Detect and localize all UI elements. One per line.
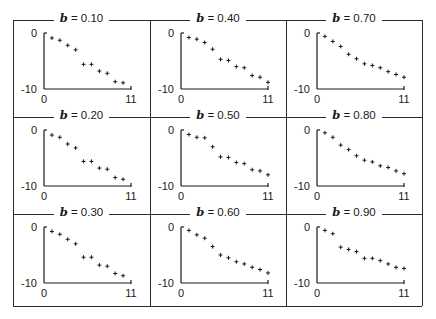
chart-panel: b = 0.200-10011 — [13, 117, 150, 214]
scatter-plot: 0-10011 — [150, 214, 286, 306]
data-point-plus-icon — [121, 274, 125, 278]
data-point-plus-icon — [258, 268, 262, 272]
data-point-plus-icon — [82, 62, 86, 66]
data-point-plus-icon — [250, 168, 254, 172]
x-tick-label-left: 0 — [314, 190, 320, 202]
y-tick-label-bottom: -10 — [158, 277, 174, 289]
data-point-plus-icon — [97, 69, 101, 73]
data-point-plus-icon — [370, 63, 374, 67]
data-point-plus-icon — [89, 255, 93, 259]
data-point-plus-icon — [187, 228, 191, 232]
data-point-plus-icon — [339, 245, 343, 249]
data-point-plus-icon — [226, 256, 230, 260]
scatter-plot: 0-10011 — [286, 117, 422, 214]
data-point-plus-icon — [82, 159, 86, 163]
data-point-plus-icon — [386, 70, 390, 74]
data-point-plus-icon — [74, 146, 78, 150]
grid-vline-3 — [422, 20, 423, 306]
x-tick-label-left: 0 — [41, 287, 47, 299]
chart-panel: b = 0.400-10011 — [150, 20, 286, 117]
data-point-plus-icon — [50, 133, 54, 137]
y-tick-label-top: 0 — [304, 27, 310, 39]
data-point-plus-icon — [219, 253, 223, 257]
data-point-plus-icon — [219, 155, 223, 159]
data-point-plus-icon — [258, 75, 262, 79]
data-point-plus-icon — [242, 66, 246, 70]
data-point-plus-icon — [402, 75, 406, 79]
data-point-plus-icon — [331, 232, 335, 236]
data-point-plus-icon — [121, 81, 125, 85]
x-tick-label-right: 11 — [262, 287, 273, 299]
scatter-plot: 0-10011 — [286, 20, 422, 117]
data-point-plus-icon — [89, 62, 93, 66]
data-point-plus-icon — [362, 158, 366, 162]
chart-panel: b = 0.900-10011 — [286, 214, 422, 306]
x-tick-label-left: 0 — [178, 93, 184, 105]
data-point-plus-icon — [58, 135, 62, 139]
x-tick-label-left: 0 — [314, 93, 320, 105]
data-point-plus-icon — [331, 39, 335, 43]
data-point-plus-icon — [347, 148, 351, 152]
x-tick-label-right: 11 — [398, 190, 409, 202]
data-point-plus-icon — [250, 265, 254, 269]
data-point-plus-icon — [66, 142, 70, 146]
data-point-plus-icon — [242, 162, 246, 166]
y-tick-label-bottom: -10 — [294, 83, 310, 95]
data-point-plus-icon — [187, 35, 191, 39]
scatter-plot: 0-10011 — [150, 20, 286, 117]
data-point-plus-icon — [97, 166, 101, 170]
data-point-plus-icon — [242, 262, 246, 266]
data-point-plus-icon — [58, 38, 62, 42]
panel-grid: b = 0.100-10011b = 0.400-10011b = 0.700-… — [13, 20, 422, 306]
data-point-plus-icon — [378, 259, 382, 263]
data-point-plus-icon — [347, 52, 351, 56]
x-tick-label-left: 0 — [41, 93, 47, 105]
data-point-plus-icon — [386, 166, 390, 170]
data-point-plus-icon — [331, 135, 335, 139]
data-point-plus-icon — [234, 260, 238, 264]
data-point-plus-icon — [105, 71, 109, 75]
data-point-plus-icon — [355, 57, 359, 61]
data-point-plus-icon — [394, 265, 398, 269]
scatter-plot: 0-10011 — [13, 20, 150, 117]
x-tick-label-right: 11 — [398, 287, 409, 299]
y-tick-label-top: 0 — [168, 124, 174, 136]
data-point-plus-icon — [266, 271, 270, 275]
data-point-plus-icon — [113, 271, 117, 275]
data-point-plus-icon — [97, 263, 101, 267]
chart-panel: b = 0.800-10011 — [286, 117, 422, 214]
y-tick-label-top: 0 — [304, 124, 310, 136]
data-point-plus-icon — [370, 256, 374, 260]
chart-panel: b = 0.100-10011 — [13, 20, 150, 117]
data-point-plus-icon — [195, 233, 199, 237]
scatter-plot: 0-10011 — [286, 214, 422, 306]
data-point-plus-icon — [211, 47, 215, 51]
data-point-plus-icon — [187, 132, 191, 136]
y-tick-label-top: 0 — [168, 27, 174, 39]
y-tick-label-bottom: -10 — [294, 180, 310, 192]
data-point-plus-icon — [258, 169, 262, 173]
data-point-plus-icon — [234, 160, 238, 164]
data-point-plus-icon — [323, 228, 327, 232]
data-point-plus-icon — [250, 74, 254, 78]
data-point-plus-icon — [50, 229, 54, 233]
data-point-plus-icon — [50, 36, 54, 40]
data-point-plus-icon — [82, 255, 86, 259]
data-point-plus-icon — [195, 37, 199, 41]
data-point-plus-icon — [105, 167, 109, 171]
chart-panel: b = 0.600-10011 — [150, 214, 286, 306]
y-tick-label-top: 0 — [31, 124, 37, 136]
data-point-plus-icon — [211, 245, 215, 249]
x-tick-label-right: 11 — [398, 93, 409, 105]
data-point-plus-icon — [362, 62, 366, 66]
data-point-plus-icon — [113, 176, 117, 180]
data-point-plus-icon — [355, 250, 359, 254]
x-tick-label-right: 11 — [125, 287, 136, 299]
y-tick-label-top: 0 — [31, 27, 37, 39]
data-point-plus-icon — [402, 172, 406, 176]
data-point-plus-icon — [226, 58, 230, 62]
data-point-plus-icon — [323, 131, 327, 135]
data-point-plus-icon — [402, 266, 406, 270]
data-point-plus-icon — [386, 262, 390, 266]
data-point-plus-icon — [113, 80, 117, 84]
